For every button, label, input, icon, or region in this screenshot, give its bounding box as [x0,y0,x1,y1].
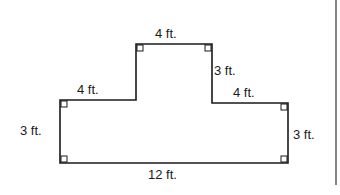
label-top: 4 ft. [155,27,177,40]
label-right-side: 3 ft. [293,128,315,141]
diagram-canvas: 4 ft. 3 ft. 4 ft. 4 ft. 3 ft. 3 ft. 12 f… [0,0,340,195]
label-left-side: 3 ft. [20,124,42,137]
label-right-step: 4 ft. [233,86,255,99]
label-right-upper: 3 ft. [214,64,236,77]
label-left-step: 4 ft. [77,83,99,96]
label-bottom: 12 ft. [148,168,177,181]
